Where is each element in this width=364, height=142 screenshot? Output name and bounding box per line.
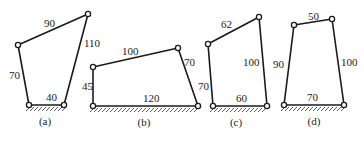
ground-hatch: [210, 108, 266, 112]
link-length-label: 60: [236, 92, 248, 104]
pivot-joint-icon: [195, 103, 200, 108]
linkage-figures-canvas: 407090110(a)1204510070(b)607062100(c)709…: [0, 0, 364, 142]
ground-hatch: [26, 107, 66, 111]
link-length-label: 70: [198, 80, 210, 92]
pivot-joint-icon: [26, 102, 31, 107]
link-length-label: 50: [308, 10, 320, 22]
four-bar-linkage-diagram: 407090110(a)1204510070(b)607062100(c)709…: [0, 0, 364, 142]
figure-caption: (d): [308, 115, 321, 128]
link-top: [208, 17, 259, 44]
link-length-label: 45: [82, 80, 94, 92]
figure-a: 407090110(a): [9, 11, 101, 128]
link-left: [284, 25, 294, 105]
link-left: [208, 44, 213, 106]
link-length-label: 100: [243, 56, 260, 68]
figure-b: 1204510070(b): [82, 45, 201, 129]
figure-d: 709050100(d): [273, 10, 358, 128]
link-length-label: 70: [9, 69, 21, 81]
pivot-joint-icon: [15, 42, 20, 47]
link-length-label: 100: [122, 45, 139, 57]
pivot-joint-icon: [210, 103, 215, 108]
link-length-label: 100: [341, 56, 358, 68]
figure-c: 607062100(c): [198, 14, 270, 129]
ground-hatch: [90, 108, 198, 112]
link-right: [259, 17, 267, 106]
link-length-label: 70: [184, 56, 196, 68]
link-length-label: 40: [46, 91, 58, 103]
pivot-joint-icon: [256, 14, 261, 19]
pivot-joint-icon: [291, 22, 296, 27]
link-length-label: 70: [307, 91, 319, 103]
pivot-joint-icon: [281, 102, 286, 107]
link-length-label: 90: [44, 17, 56, 29]
link-length-label: 110: [84, 37, 101, 49]
figure-caption: (a): [39, 115, 52, 128]
pivot-joint-icon: [90, 64, 95, 69]
pivot-joint-icon: [205, 41, 210, 46]
pivot-joint-icon: [264, 103, 269, 108]
link-length-label: 120: [143, 92, 160, 104]
link-length-label: 62: [221, 18, 232, 30]
pivot-joint-icon: [341, 102, 346, 107]
pivot-joint-icon: [61, 102, 66, 107]
ground-hatch: [281, 107, 345, 111]
pivot-joint-icon: [175, 45, 180, 50]
figure-caption: (c): [230, 116, 243, 129]
pivot-joint-icon: [85, 11, 90, 16]
link-length-label: 90: [273, 58, 285, 70]
pivot-joint-icon: [90, 103, 95, 108]
pivot-joint-icon: [329, 16, 334, 21]
figure-caption: (b): [138, 116, 151, 129]
